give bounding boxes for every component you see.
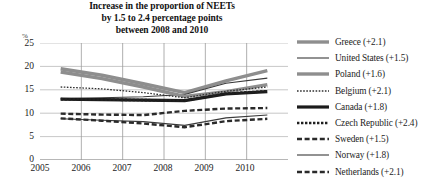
plot-area [40, 43, 288, 160]
legend-item-label: Norway (+1.8) [335, 150, 389, 160]
legend-item-label: Netherlands (+2.1) [335, 167, 404, 177]
legend-line-swatch-icon [296, 149, 330, 161]
legend-item[interactable]: Poland (+1.6) [296, 66, 438, 82]
legend-item[interactable]: Belgium (+2.1) [296, 83, 438, 99]
legend-item[interactable]: Greece (+2.1) [296, 34, 438, 50]
legend-item-label: Poland (+1.6) [335, 69, 385, 79]
legend-item-label: Sweden (+1.5) [335, 134, 389, 144]
x-axis-tick-2006: 2006 [60, 163, 102, 173]
y-axis-tick-5: 5 [8, 131, 34, 141]
legend-line-swatch-icon [296, 68, 330, 80]
y-axis-tick-20: 20 [8, 61, 34, 71]
chart-title: Increase in the proportion of NEETs by 1… [48, 1, 276, 36]
legend-item[interactable]: Czech Republic (+2.4) [296, 115, 438, 131]
chart-title-line-1: Increase in the proportion of NEETs [48, 1, 276, 13]
legend-line-swatch-icon [296, 36, 330, 48]
legend-line-swatch-icon [296, 52, 330, 64]
legend-item[interactable]: Netherlands (+2.1) [296, 164, 438, 180]
y-axis-tick-25: 25 [8, 38, 34, 48]
legend-line-swatch-icon [296, 133, 330, 145]
legend-item-label: Canada (+1.8) [335, 102, 387, 112]
chart-figure: Increase in the proportion of NEETs by 1… [0, 0, 438, 184]
y-axis-tick-10: 10 [8, 108, 34, 118]
legend-line-swatch-icon [296, 101, 330, 113]
legend-item[interactable]: Sweden (+1.5) [296, 131, 438, 147]
x-axis-tick-2010: 2010 [224, 163, 266, 173]
legend: Greece (+2.1)United States (+1.5)Poland … [296, 34, 438, 180]
x-axis-tick-2009: 2009 [183, 163, 225, 173]
x-axis-tick-2005: 2005 [19, 163, 61, 173]
legend-item-label: United States (+1.5) [335, 53, 408, 63]
legend-line-swatch-icon [296, 117, 330, 129]
legend-item[interactable]: United States (+1.5) [296, 50, 438, 66]
x-axis-tick-2007: 2007 [101, 163, 143, 173]
legend-item[interactable]: Norway (+1.8) [296, 147, 438, 163]
legend-line-swatch-icon [296, 166, 330, 178]
plot-svg [40, 43, 288, 160]
legend-item[interactable]: Canada (+1.8) [296, 99, 438, 115]
chart-title-line-2: by 1.5 to 2.4 percentage points [48, 13, 276, 25]
legend-item-label: Greece (+2.1) [335, 37, 385, 47]
x-axis-tick-2008: 2008 [142, 163, 184, 173]
legend-item-label: Belgium (+2.1) [335, 86, 391, 96]
y-axis-tick-15: 15 [8, 84, 34, 94]
legend-line-swatch-icon [296, 85, 330, 97]
chart-title-line-3: between 2008 and 2010 [48, 25, 276, 37]
legend-item-label: Czech Republic (+2.4) [335, 118, 417, 128]
